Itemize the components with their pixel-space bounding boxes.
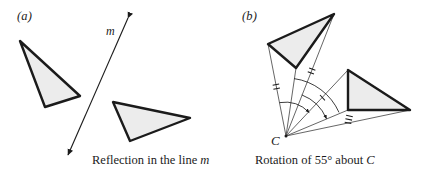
caption-b: Rotation of 55° about C	[255, 153, 375, 168]
panel-label-b: (b)	[242, 9, 257, 24]
radius-c-image	[286, 110, 348, 136]
angle-arc-inner	[294, 79, 339, 113]
mirror-line-label: m	[106, 24, 115, 39]
caption-a: Reflection in the line m	[92, 153, 209, 168]
caption-a-italic: m	[200, 153, 209, 167]
tick-marks	[273, 68, 353, 124]
radius-a-image	[286, 70, 348, 136]
triangle-original-a	[20, 41, 80, 107]
panel-a-group	[20, 18, 190, 155]
triangle-image-b	[348, 70, 410, 110]
panel-b-group	[268, 14, 410, 138]
caption-b-text: Rotation of 55	[255, 153, 327, 167]
caption-a-text: Reflection in the line	[92, 153, 200, 167]
center-label-c: C	[271, 133, 280, 149]
triangle-original-b	[268, 14, 334, 68]
angle-arc-outer	[280, 102, 310, 112]
caption-b-middle: about	[332, 153, 366, 167]
caption-b-italic: C	[366, 153, 374, 167]
panel-label-a: (a)	[17, 9, 32, 24]
center-point-c	[285, 135, 288, 138]
geometry-figure	[0, 0, 431, 178]
mirror-line-m	[68, 18, 128, 155]
rotation-radii	[268, 14, 410, 136]
angle-arcs	[280, 79, 340, 119]
triangle-image-a	[113, 102, 190, 141]
